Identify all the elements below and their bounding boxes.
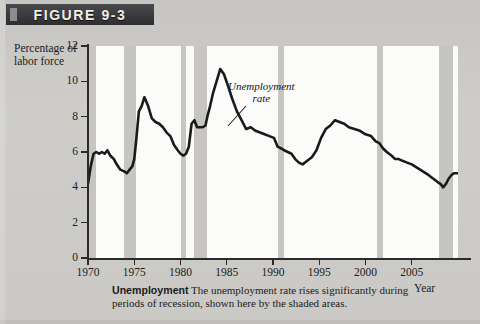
- y-tick-label: 2: [56, 216, 78, 228]
- annotation-line-1: Unemployment: [228, 80, 295, 92]
- x-tick-label: 1980: [161, 266, 201, 278]
- y-tick-label: 0: [56, 251, 78, 263]
- y-tick-mark: [81, 187, 88, 188]
- x-tick-mark: [365, 259, 366, 265]
- x-axis-line: [87, 258, 471, 260]
- y-tick-mark: [81, 45, 88, 46]
- caption-lead: Unemployment: [112, 284, 189, 296]
- x-tick-label: 1990: [253, 266, 293, 278]
- x-tick-label: 2005: [392, 266, 432, 278]
- unemployment-rate-line: [88, 46, 458, 258]
- page-bottom-edge: [0, 320, 480, 324]
- x-tick-label: 1995: [299, 266, 339, 278]
- x-tick-mark: [319, 259, 320, 265]
- x-tick-label: 1970: [68, 266, 108, 278]
- x-tick-mark: [272, 259, 273, 265]
- x-tick-mark: [134, 259, 135, 265]
- figure-banner: FIGURE 9-3: [6, 4, 154, 25]
- figure-caption: Unemployment The unemployment rate rises…: [112, 284, 442, 310]
- y-tick-label: 8: [56, 110, 78, 122]
- y-tick-label: 4: [56, 180, 78, 192]
- x-tick-label: 2000: [346, 266, 386, 278]
- y-tick-label: 6: [56, 145, 78, 157]
- figure-number-label: FIGURE 9-3: [33, 7, 126, 23]
- y-tick-label: 10: [56, 74, 78, 86]
- banner-accent-mark: [10, 8, 17, 21]
- y-tick-label: 12: [56, 39, 78, 51]
- x-tick-mark: [226, 259, 227, 265]
- x-tick-label: 1985: [207, 266, 247, 278]
- x-tick-mark: [411, 259, 412, 265]
- x-tick-label: 1975: [114, 266, 154, 278]
- series-annotation: Unemployment rate: [228, 80, 295, 104]
- y-tick-mark: [81, 151, 88, 152]
- chart-area: Percentage of labor force 024681012 1970…: [0, 28, 480, 276]
- x-tick-mark: [180, 259, 181, 265]
- figure-page: FIGURE 9-3 Percentage of labor force 024…: [0, 0, 480, 324]
- annotation-line-2: rate: [228, 92, 295, 104]
- y-tick-mark: [81, 81, 88, 82]
- x-tick-mark: [87, 259, 88, 265]
- y-tick-mark: [81, 222, 88, 223]
- y-tick-mark: [81, 116, 88, 117]
- plot-canvas: [88, 46, 458, 258]
